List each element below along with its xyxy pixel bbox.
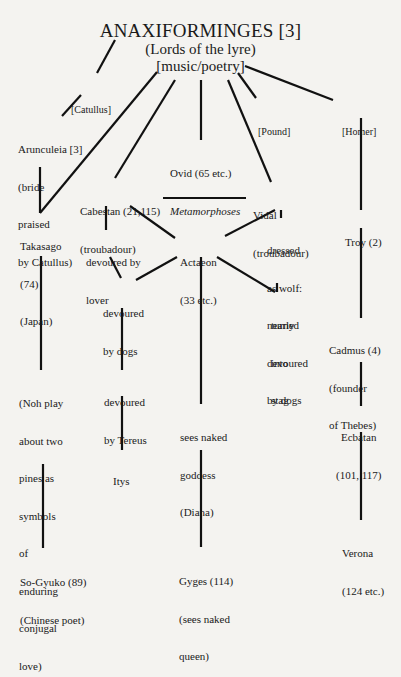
node-actaeon: Actaeon (33 etc.) [180,231,217,331]
node-ecbatan: Ecbatan (101, 117) [336,406,381,506]
diagram-title: ANAXIFORMINGES [3] (Lords of the lyre) [… [0,21,401,75]
node-ovid: Ovid (65 etc.) Metamorphoses [170,142,240,242]
title-name: ANAXIFORMINGES [3] [0,21,401,41]
node-itys: Itys [113,450,130,513]
node-troy: Troy (2) [345,211,382,274]
node-turned-into-stag: turned into stag [271,294,299,432]
node-pound: [Pound] [258,101,290,164]
title-category: [music/poetry] [0,58,401,75]
node-gyges: Gyges (114) (sees naked queen) [179,550,233,677]
node-so-gyuko: So-Gyuko (89) (Chinese poet) [20,551,86,651]
title-subtitle: (Lords of the lyre) [0,41,401,58]
node-takasago: Takasago (74) (Japan) [20,215,61,353]
node-homer: [Homer] [342,101,376,164]
node-devoured-by-dogs: devoured by dogs [103,282,144,382]
node-verona: Verona (124 etc.) [342,522,384,622]
node-sees-naked-goddess: sees naked goddess (Diana) [180,406,227,544]
edge-title-cabestan [115,80,175,178]
edge-title-pound [238,73,256,98]
